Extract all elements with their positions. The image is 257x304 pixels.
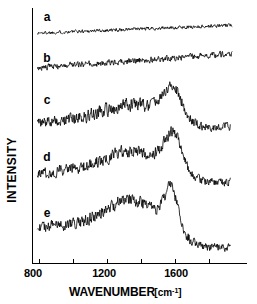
trace-label-a: a xyxy=(44,10,51,24)
x-axis-title: WAVENUMBER xyxy=(69,285,156,299)
x-axis-unit: [cm-1] xyxy=(154,287,181,298)
trace-label-b: b xyxy=(43,51,50,65)
spectra-plot: 800 1200 1600 a b c d e INTENSITY WAVENU… xyxy=(0,0,257,304)
x-axis-unit-close: ] xyxy=(178,287,181,298)
x-axis-unit-open: [cm xyxy=(154,287,172,298)
spectrum-trace-a xyxy=(38,24,232,35)
trace-label-e: e xyxy=(44,206,51,220)
spectrum-trace-b xyxy=(38,51,232,71)
trace-label-d: d xyxy=(43,150,50,164)
y-axis-title: INTENSITY xyxy=(5,137,19,202)
xtick-label-1600: 1600 xyxy=(164,267,188,279)
xtick-label-800: 800 xyxy=(24,267,42,279)
xtick-label-1200: 1200 xyxy=(92,267,116,279)
spectrum-traces xyxy=(38,24,232,252)
trace-label-c: c xyxy=(44,93,51,107)
spectrum-trace-e xyxy=(38,181,231,251)
spectrum-trace-d xyxy=(38,126,231,186)
spectrum-trace-c xyxy=(38,82,231,132)
figure-container: 800 1200 1600 a b c d e INTENSITY WAVENU… xyxy=(0,0,257,304)
